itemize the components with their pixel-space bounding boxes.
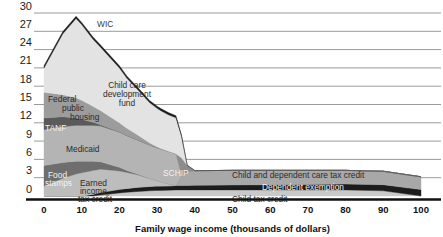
x-tick-label: 40 — [190, 204, 201, 215]
annotation-wic: WIC — [97, 19, 113, 29]
x-tick-label: 70 — [303, 204, 314, 215]
y-tick-label: 6 — [26, 146, 32, 158]
x-tick-label: 100 — [413, 204, 429, 215]
y-tick-label: 15 — [20, 91, 32, 103]
annotation-food-stamps: stamps — [45, 178, 72, 188]
y-tick-label: 0 — [26, 183, 32, 195]
annotation-child-and-dependent-care-tax-credit: Child and dependent care tax credit — [232, 170, 365, 180]
annotation-dependent-exemption: Dependent exemption — [262, 182, 344, 192]
x-tick-label: 30 — [152, 204, 163, 215]
y-tick-label: 12 — [20, 109, 32, 121]
x-tick-label: 50 — [227, 204, 238, 215]
chart-canvas: 036912151821242730 010203040506070809010… — [0, 0, 443, 237]
x-tick-label: 90 — [378, 204, 389, 215]
y-tick-label: 30 — [20, 0, 32, 12]
y-tick-label: 18 — [20, 73, 32, 85]
annotation-federal-public-housing: housing — [70, 112, 100, 122]
y-tick-label: 3 — [26, 164, 32, 176]
y-tick-label: 9 — [26, 128, 32, 140]
x-tick-label: 20 — [114, 204, 125, 215]
annotation-medicaid: Medicaid — [66, 144, 100, 154]
x-tick-label: 60 — [265, 204, 276, 215]
y-tick-label: 24 — [20, 36, 32, 48]
y-tick-label: 27 — [20, 18, 32, 30]
x-axis-title: Family wage income (thousands of dollars… — [135, 223, 330, 234]
y-tick-label: 21 — [20, 54, 32, 66]
x-tick-label: 0 — [41, 204, 46, 215]
x-tick-label: 80 — [340, 204, 351, 215]
stacked-area-chart: 036912151821242730 010203040506070809010… — [0, 0, 443, 237]
x-tick-label: 10 — [76, 204, 87, 215]
annotation-schip: SCHIP — [163, 168, 189, 178]
y-axis-ticks: 036912151821242730 — [20, 0, 32, 195]
annotation-child-care-development-fund: fund — [119, 98, 136, 108]
x-axis-ticks: 0102030405060708090100 — [41, 204, 429, 215]
annotation-tanf: TANF — [45, 123, 66, 133]
